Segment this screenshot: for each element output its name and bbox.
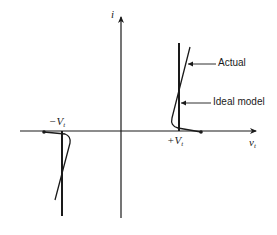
positive-threshold-label: +Vt bbox=[167, 135, 183, 148]
y-axis-label: i bbox=[111, 9, 114, 20]
negative-threshold-main: −V bbox=[49, 115, 63, 127]
positive-threshold-sub: t bbox=[181, 140, 183, 148]
ideal-model-annotation: Ideal model bbox=[213, 97, 265, 107]
actual-curve-negative bbox=[44, 132, 70, 200]
negative-threshold-sub: t bbox=[63, 121, 65, 129]
actual-curve-positive-endpoint bbox=[199, 130, 203, 134]
actual-annotation: Actual bbox=[218, 58, 246, 68]
iv-characteristic-diagram bbox=[0, 0, 277, 235]
positive-threshold-main: +V bbox=[167, 134, 181, 146]
negative-threshold-label: −Vt bbox=[49, 116, 65, 129]
x-axis-label-sub: t bbox=[254, 142, 256, 150]
x-axis-label: vt bbox=[249, 137, 256, 150]
actual-curve-positive bbox=[172, 47, 201, 132]
actual-curve-negative-endpoint bbox=[42, 130, 46, 134]
